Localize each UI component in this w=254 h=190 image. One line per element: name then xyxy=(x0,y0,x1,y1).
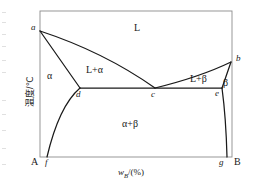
region-label-alpha-plus-beta: α+β xyxy=(122,119,138,129)
point-label-d: d xyxy=(76,90,81,99)
point-label-g: g xyxy=(219,158,224,167)
x-axis-title-unit: /(%) xyxy=(128,167,144,177)
region-label-beta: β xyxy=(223,78,228,88)
point-label-a: a xyxy=(31,23,36,32)
liquidus-curve-a-side xyxy=(40,31,155,88)
region-label-liquid: L xyxy=(134,23,140,33)
end-label-component-b: B xyxy=(234,157,241,167)
beta-solvus-curve xyxy=(222,88,227,157)
phase-diagram-figure: L L+α L+β α β α+β a b c d e f g A B wB/(… xyxy=(0,0,254,190)
x-axis-title: wB/(%) xyxy=(118,168,144,179)
y-axis-title: 温度/℃ xyxy=(26,76,35,107)
point-label-c: c xyxy=(151,90,155,99)
region-label-liquid-plus-alpha: L+α xyxy=(86,65,103,75)
region-label-liquid-plus-beta: L+β xyxy=(190,74,207,84)
point-label-e: e xyxy=(215,89,219,98)
solidus-curve-a-side xyxy=(40,31,80,88)
point-label-b: b xyxy=(236,54,241,63)
region-label-alpha: α xyxy=(47,71,52,81)
point-label-f: f xyxy=(45,158,48,167)
end-label-component-a: A xyxy=(31,157,38,167)
